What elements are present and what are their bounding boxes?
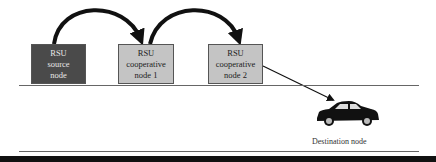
road-line-upper: [19, 85, 419, 86]
destination-label: Destination node: [312, 137, 366, 146]
node-label: RSU cooperative node 1: [126, 48, 166, 81]
rsu-cooperative-node-2: RSU cooperative node 2: [208, 44, 263, 84]
rsu-source-node: RSU source node: [31, 44, 86, 84]
road-line-lower: [19, 151, 419, 152]
node-label: RSU source node: [47, 48, 69, 81]
node-label: RSU cooperative node 2: [216, 48, 256, 81]
arrow-coop2-to-destination: [263, 66, 333, 100]
rsu-cooperative-node-1: RSU cooperative node 1: [118, 44, 174, 84]
car-icon: [317, 101, 379, 126]
arrow-source-to-coop1: [54, 10, 140, 44]
arrow-coop1-to-coop2: [150, 10, 238, 44]
bottom-rule: [0, 156, 436, 162]
